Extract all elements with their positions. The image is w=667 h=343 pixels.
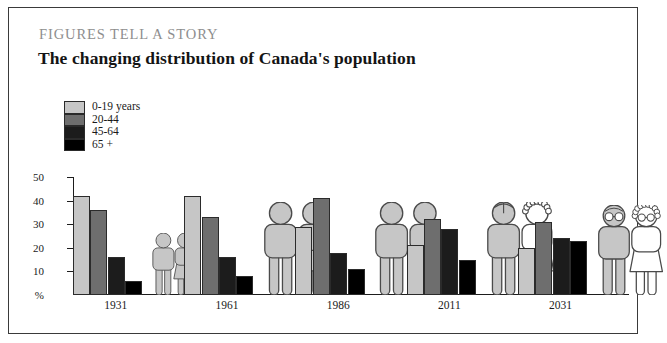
chart-legend: 0-19 years20-4445-6465 + [64,101,264,151]
bar [535,222,552,295]
bar [459,260,476,295]
legend-swatch [64,126,85,139]
legend-label: 0-19 years [92,100,140,112]
y-tick-label: 30 [4,218,44,230]
bar [441,229,458,295]
bar [313,198,330,295]
kicker-text: FIGURES TELL A STORY [39,26,218,43]
bar [553,238,570,295]
bar [348,269,365,295]
bar [108,257,125,295]
bar [295,227,312,295]
bar [219,257,236,295]
legend-swatch [64,101,85,114]
bar [330,253,347,295]
legend-swatch [64,139,85,152]
x-axis-label: 2011 [409,299,489,311]
x-axis-label: 1986 [298,299,378,311]
x-axis-label: 1961 [187,299,267,311]
page-title: The changing distribution of Canada's po… [38,48,416,69]
bar [518,248,535,295]
bar-group [518,177,629,295]
bar-group [295,177,406,295]
bar [236,276,253,295]
bar-chart: 5040302010% 19311961198620112031 [47,173,633,323]
plot-area [73,177,629,295]
bar [90,210,107,295]
figure-frame: FIGURES TELL A STORY The changing distri… [8,7,638,334]
legend-item: 65 + [64,139,264,152]
bar-group [407,177,518,295]
bar [125,281,142,295]
bar [407,245,424,295]
legend-label: 20-44 [92,113,119,125]
x-axis-label: 2031 [521,299,601,311]
bar-group [184,177,295,295]
bar [570,241,587,295]
pictogram-couple-elderly-glasses [594,205,667,295]
bar [184,196,201,295]
y-tick-label: 10 [4,265,44,277]
y-tick-label: 40 [4,195,44,207]
y-tick-label: 20 [4,242,44,254]
bar [424,219,441,295]
legend-swatch [64,114,85,127]
y-axis-unit: % [4,289,44,301]
legend-label: 45-64 [92,125,119,137]
y-tick-label: 50 [4,171,44,183]
bar [202,217,219,295]
legend-label: 65 + [92,138,113,150]
bar [73,196,90,295]
bar-group [73,177,184,295]
x-axis-label: 1931 [76,299,156,311]
